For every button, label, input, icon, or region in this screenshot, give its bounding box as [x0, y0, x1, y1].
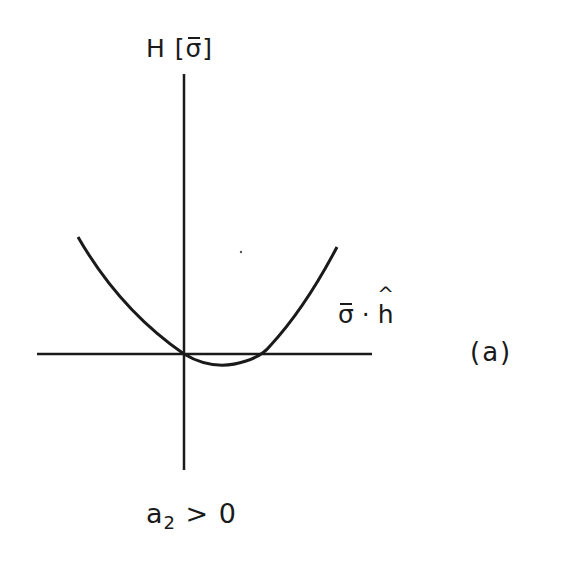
- speck: [240, 251, 242, 253]
- panel-label: (a): [470, 337, 512, 367]
- condition-label: a2 > 0: [146, 498, 237, 533]
- parabola-curve: [78, 237, 337, 365]
- figure-canvas: [0, 0, 580, 572]
- y-axis-label: H [σ]: [146, 34, 213, 63]
- x-axis-label: σ · h: [338, 300, 394, 329]
